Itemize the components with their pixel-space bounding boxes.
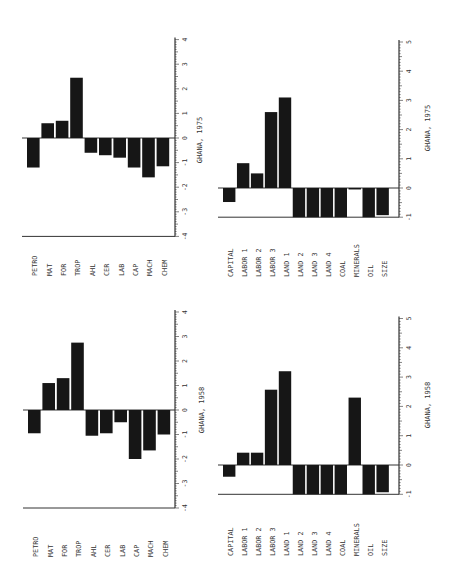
chart-title: GHANA, 1958 [424, 382, 432, 428]
category-label: COAL [339, 540, 347, 556]
tick-label: 1 [181, 111, 189, 115]
category-label: LABOR 1 [241, 248, 249, 277]
bar-trop [70, 78, 83, 138]
bar-minerals [349, 188, 361, 189]
tick-label: 5 [405, 40, 413, 44]
chart-panel-ghana-1958-endowments: -1012345CAPITALLABOR 1LABOR 2LABOR 3LAND… [218, 316, 432, 556]
bar-cer [100, 410, 113, 433]
bar-petro [27, 138, 40, 168]
category-label: CHEM [162, 541, 170, 557]
category-label: LAND 2 [297, 531, 305, 556]
bar-cer [99, 138, 112, 155]
bar-labor-3 [265, 390, 277, 465]
category-label: CAPITAL [227, 248, 235, 277]
category-label: MAT [47, 545, 55, 557]
category-label: LABOR 1 [241, 527, 249, 556]
category-label: CHEM [161, 260, 169, 276]
tick-label: 5 [405, 316, 413, 320]
tick-label: 4 [181, 38, 189, 42]
bar-coal [335, 188, 347, 217]
bar-labor-1 [237, 163, 249, 188]
tick-label: 0 [405, 463, 413, 467]
bar-size [376, 188, 388, 215]
tick-label: -1 [405, 490, 413, 498]
bar-cap [128, 138, 141, 168]
chart-panel-ghana-1975-commodities: -4-3-2-101234PETROMATFORTROPAHLCERLABCAP… [22, 38, 204, 276]
tick-label: -1 [181, 431, 189, 439]
tick-label: 3 [181, 62, 189, 66]
category-label: FOR [60, 263, 68, 276]
category-label: LAND 2 [297, 252, 305, 277]
bar-chart-figure: -4-3-2-101234PETROMATFORTROPAHLCERLABCAP… [0, 0, 453, 586]
category-label: MACH [147, 541, 155, 557]
category-label: LAND 1 [283, 531, 291, 556]
bar-labor-1 [237, 453, 249, 465]
bar-land-1 [279, 371, 291, 465]
category-label: OIL [367, 544, 375, 556]
chart-title: GHANA, 1958 [198, 387, 206, 433]
category-label: CER [103, 263, 111, 276]
category-label: MINERALS [353, 244, 361, 277]
tick-label: 3 [405, 98, 413, 102]
category-label: LABOR 3 [269, 248, 277, 277]
bar-ahl [85, 138, 98, 153]
tick-label: -2 [181, 183, 189, 191]
chart-title: GHANA, 1975 [196, 117, 204, 163]
bar-oil [363, 188, 375, 217]
category-label: LAND 3 [311, 252, 319, 277]
category-label: PETRO [32, 537, 40, 557]
category-label: SIZE [381, 540, 389, 556]
bar-land-2 [293, 465, 305, 494]
bar-land-1 [279, 97, 291, 188]
tick-label: 0 [181, 136, 189, 140]
category-label: LAND 4 [325, 252, 333, 277]
chart-panel-ghana-1975-endowments: -1012345CAPITALLABOR 1LABOR 2LABOR 3LAND… [218, 40, 432, 277]
bar-labor-2 [251, 453, 263, 465]
bar-lab [114, 410, 127, 422]
tick-label: 2 [405, 404, 413, 408]
bar-petro [28, 410, 41, 433]
tick-label: 4 [405, 346, 413, 350]
tick-label: 3 [405, 375, 413, 379]
category-label: LABOR 2 [255, 527, 263, 556]
category-label: OIL [367, 265, 375, 277]
tick-label: 2 [405, 128, 413, 132]
bar-land-2 [293, 188, 305, 217]
bar-coal [335, 465, 347, 494]
category-label: AHL [89, 264, 97, 276]
category-label: MINERALS [353, 523, 361, 556]
bar-land-3 [307, 188, 319, 217]
bar-capital [223, 465, 235, 477]
bar-land-4 [321, 188, 333, 217]
figure-canvas: -4-3-2-101234PETROMATFORTROPAHLCERLABCAP… [0, 0, 453, 586]
bar-mach [142, 138, 155, 177]
tick-label: 2 [181, 359, 189, 363]
category-label: MAT [46, 264, 54, 276]
bar-labor-2 [251, 173, 263, 188]
category-label: COAL [339, 261, 347, 277]
chart-panel-ghana-1958-commodities: -4-3-2-101234PETROMATFORTROPAHLCERLABCAP… [23, 310, 206, 557]
bar-land-3 [307, 465, 319, 494]
category-label: FOR [61, 544, 69, 557]
tick-label: 4 [181, 310, 189, 314]
tick-label: -4 [181, 232, 189, 240]
category-label: LAND 1 [283, 252, 291, 277]
bar-mach [143, 410, 156, 450]
tick-label: -3 [181, 480, 189, 488]
category-label: LABOR 2 [255, 248, 263, 277]
tick-label: -1 [181, 159, 189, 167]
category-label: TROP [74, 260, 82, 276]
category-label: CAPITAL [227, 527, 235, 556]
tick-label: -4 [181, 504, 189, 512]
category-label: MACH [146, 260, 154, 276]
tick-label: 4 [405, 69, 413, 73]
tick-label: 3 [181, 334, 189, 338]
bar-capital [223, 188, 235, 202]
bar-trop [71, 343, 84, 410]
bar-mat [41, 123, 54, 138]
category-label: CAP [132, 264, 140, 276]
category-label: LAND 3 [311, 531, 319, 556]
category-label: CER [104, 544, 112, 557]
category-label: LAB [119, 545, 127, 557]
bar-for [57, 378, 70, 410]
